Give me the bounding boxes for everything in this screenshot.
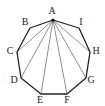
vertex-label-A: A xyxy=(48,5,56,16)
vertex-label-G: G xyxy=(87,74,94,85)
vertex-label-H: H xyxy=(92,45,99,56)
vertex-label-C: C xyxy=(7,45,14,56)
vertex-label-E: E xyxy=(37,94,43,105)
diagonal-AF xyxy=(53,20,67,94)
diagonal-AH xyxy=(53,20,90,52)
vertex-label-F: F xyxy=(64,94,70,105)
diagonal-AG xyxy=(53,20,86,78)
nonagon-diagram: A B C D E F G H I xyxy=(0,0,105,106)
vertex-label-I: I xyxy=(79,16,82,27)
apex-point-A xyxy=(51,18,54,21)
vertex-label-B: B xyxy=(22,16,29,27)
nonagon-outline xyxy=(17,20,90,94)
vertex-label-D: D xyxy=(10,74,17,85)
